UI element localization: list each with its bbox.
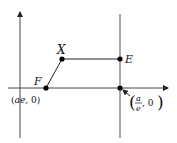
- point-f: [43, 85, 48, 90]
- label-d-close-paren: ): [157, 92, 164, 112]
- label-d-tail: , 0: [142, 98, 154, 108]
- point-directrix-intersection: [117, 85, 122, 90]
- label-f: F: [33, 75, 42, 88]
- label-d-open-paren: (: [129, 92, 136, 112]
- label-x: X: [56, 43, 66, 57]
- label-d-denominator: e: [136, 104, 141, 113]
- point-e: [117, 56, 122, 61]
- point-x: [59, 56, 64, 61]
- diagram-canvas: X E F (ae, 0) ( a e , 0 ): [0, 0, 177, 143]
- label-d-numerator: a: [136, 94, 141, 103]
- label-f-coord: (ae, 0): [11, 95, 40, 105]
- label-e: E: [124, 53, 133, 66]
- segment-fx: [46, 59, 62, 88]
